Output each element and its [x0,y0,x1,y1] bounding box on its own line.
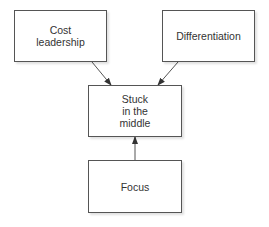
node-label: Focus [121,181,150,193]
node-label: Differentiation [176,30,241,42]
arrow-cost-to-stuck [92,62,111,85]
node-label: Cost leadership [36,24,84,48]
node-focus: Focus [88,160,182,213]
node-cost-leadership: Cost leadership [14,10,107,62]
arrow-differentiation-to-stuck [158,62,178,85]
node-stuck-in-the-middle: Stuck in the middle [88,85,182,137]
node-label: Stuck in the middle [120,93,151,129]
node-differentiation: Differentiation [162,10,255,62]
